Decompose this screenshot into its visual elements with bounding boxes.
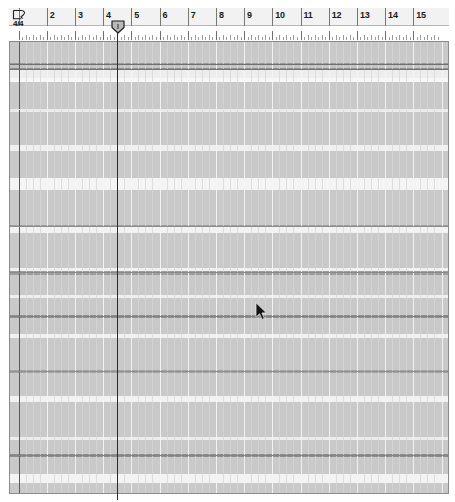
beat-tick [110,35,111,40]
beat-tick [117,35,118,40]
bar-number-label: 5 [134,10,139,21]
subdivision-tick [170,37,171,40]
beat-tick-strip[interactable] [9,26,449,41]
beat-tick [258,35,259,40]
bar-number-label: 8 [219,10,224,21]
beat-tick [195,35,196,40]
subdivision-tick [163,37,164,40]
subdivision-tick [135,37,136,40]
beat-tick [286,35,287,40]
bar-divider [47,8,48,26]
track-separator [10,109,448,110]
subdivision-tick [78,37,79,40]
track-grid[interactable] [10,42,448,493]
beat-tick [202,35,203,40]
subdivision-tick [142,37,143,40]
subdivision-tick [191,37,192,40]
subdivision-tick [346,37,347,40]
subdivision-tick [424,37,425,40]
subdivision-tick [107,37,108,40]
arrangement-editor: 23456789101112131415 4/4 [0,0,455,502]
beat-tick [399,35,400,40]
beat-tick [237,35,238,40]
subdivision-tick [22,37,23,40]
beat-tick [308,35,309,40]
bar-number-label: 15 [416,10,426,21]
time-signature-marker[interactable]: 4/4 [12,9,34,33]
bar-tick [413,31,414,40]
beat-tick [364,35,365,40]
beat-tick [293,35,294,40]
bar-divider [244,8,245,26]
subdivision-tick [226,37,227,40]
subdivision-tick [43,37,44,40]
bar-number-strip[interactable]: 23456789101112131415 [9,8,449,26]
bar-number-label: 12 [332,10,342,21]
subdivision-tick [114,37,115,40]
beat-tick [61,35,62,40]
bar-tick [385,31,386,40]
bar-divider [385,8,386,26]
subdivision-tick [276,37,277,40]
beat-tick [279,35,280,40]
beat-tick [33,35,34,40]
subdivision-tick [360,37,361,40]
subdivision-tick [255,37,256,40]
subdivision-tick [431,37,432,40]
track-separator [10,272,448,273]
bar-tick [160,31,161,40]
beat-tick [124,35,125,40]
bar-number-label: 9 [247,10,252,21]
track-separator [10,316,448,317]
subdivision-tick [219,37,220,40]
beat-tick [89,35,90,40]
bar-tick [357,31,358,40]
bar-tick [131,31,132,40]
subdivision-tick [149,37,150,40]
bar-tick [47,31,48,40]
bar-number-label: 14 [388,10,398,21]
bar-number-label: 6 [163,10,168,21]
beat-tick [322,35,323,40]
bar-divider [188,8,189,26]
subdivision-tick [184,37,185,40]
track-separator [10,371,448,372]
subdivision-tick [156,37,157,40]
beat-tick [223,35,224,40]
beat-tick [96,35,97,40]
bar-number-label: 7 [191,10,196,21]
beat-tick [427,35,428,40]
beat-tick [378,35,379,40]
subdivision-tick [389,37,390,40]
subdivision-tick [290,37,291,40]
bar-tick [244,31,245,40]
beat-tick [371,35,372,40]
bar-number-label: 2 [50,10,55,21]
beat-tick [26,35,27,40]
subdivision-tick [85,37,86,40]
bar-divider [413,8,414,26]
beat-tick [420,35,421,40]
bar-divider [103,8,104,26]
subdivision-tick [234,37,235,40]
bar-ruler[interactable]: 23456789101112131415 [9,8,449,42]
bar-number-label: 10 [275,10,285,21]
bar-tick [103,31,104,40]
track-separator [10,69,448,70]
subdivision-tick [93,37,94,40]
subdivision-tick [311,37,312,40]
bar-tick [272,31,273,40]
beat-tick [336,35,337,40]
subdivision-tick [325,37,326,40]
subdivision-tick [318,37,319,40]
beat-tick [167,35,168,40]
beat-tick [392,35,393,40]
beat-tick [138,35,139,40]
subdivision-tick [332,37,333,40]
beat-tick [315,35,316,40]
subdivision-tick [121,37,122,40]
bar-divider [272,8,273,26]
subdivision-tick [403,37,404,40]
bar-number-label: 3 [78,10,83,21]
subdivision-tick [198,37,199,40]
